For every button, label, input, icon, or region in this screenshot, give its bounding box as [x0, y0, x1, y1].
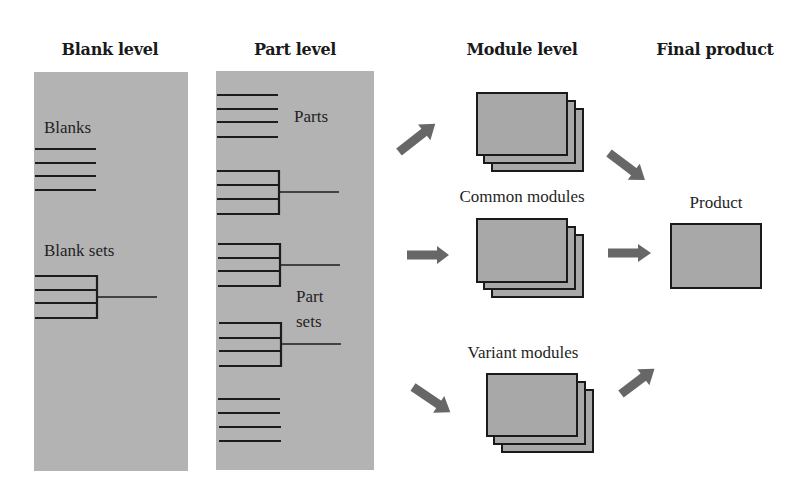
- part-level-panel: Parts Part sets: [216, 71, 374, 470]
- arrow-icon-top-to-product: [603, 145, 651, 188]
- module-stack-common: [477, 219, 583, 297]
- blank-level-panel: Blanks Blank sets: [34, 72, 188, 471]
- heading-blank-level: Blank level: [62, 40, 159, 59]
- variant-modules-label: Variant modules: [468, 343, 579, 362]
- arrow-icon-to-top-modules: [393, 116, 442, 160]
- parts-label: Parts: [294, 107, 328, 126]
- heading-module-level: Module level: [466, 40, 577, 59]
- blank-sets-label: Blank sets: [44, 241, 114, 260]
- blanks-label: Blanks: [44, 118, 91, 137]
- module-stack-top: [477, 93, 583, 171]
- common-modules-label: Common modules: [459, 187, 584, 206]
- modular-product-diagram: Blank level Part level Module level Fina…: [0, 0, 804, 496]
- module-stack-variant: [487, 374, 593, 452]
- arrow-icon-variant-to-product: [615, 361, 661, 402]
- part-sets-label-line2: sets: [296, 312, 322, 331]
- heading-final-product: Final product: [656, 40, 774, 59]
- product-label: Product: [690, 193, 743, 212]
- part-sets-label-line1: Part: [296, 287, 324, 306]
- arrow-icon-common-to-product: [608, 244, 651, 262]
- product-box: [671, 224, 761, 288]
- arrow-icon-to-common-modules: [407, 246, 449, 264]
- arrow-icon-to-variant-modules: [407, 379, 455, 421]
- heading-part-level: Part level: [254, 40, 336, 59]
